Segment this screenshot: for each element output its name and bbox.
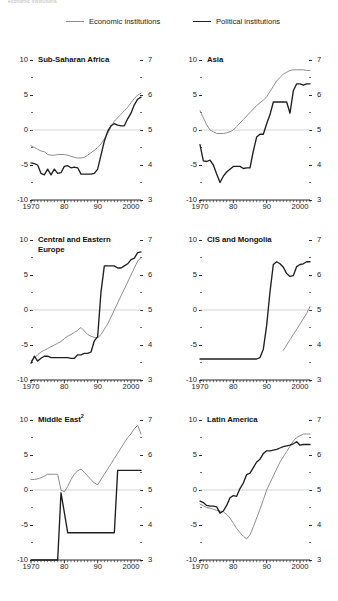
y-axis-right-minor-tick <box>313 108 335 118</box>
y-axis-right-tick: 4 <box>313 340 335 350</box>
y-axis-right-minor-tick <box>144 108 166 118</box>
x-axis-labels: 197080902000 <box>200 382 310 394</box>
y-axis-left-tick: -5 <box>6 520 28 530</box>
chart-panel: Central and Eastern Europe1050-5-1076543… <box>0 232 169 412</box>
y-axis-left-tick: 0 <box>175 305 197 315</box>
y-axis-left-tick: -5 <box>175 160 197 170</box>
y-axis-left-minor-tick <box>6 323 28 333</box>
x-axis-label: 90 <box>93 382 101 391</box>
y-axis-left-tick: -5 <box>6 160 28 170</box>
x-axis-label: 1970 <box>23 562 40 571</box>
y-axis-left-label: -5 <box>21 340 28 349</box>
y-axis-right-label: 6 <box>317 450 321 459</box>
y-axis-left-minor-tick <box>175 433 197 443</box>
y-axis-right-tick: 4 <box>313 160 335 170</box>
y-axis-right-tick: 7 <box>144 235 166 245</box>
y-axis-right-tick: 3 <box>313 195 335 205</box>
y-axis-left-tick: 5 <box>175 450 197 460</box>
y-axis-left-minor-tick <box>6 288 28 298</box>
y-axis-right-label: 7 <box>317 55 321 64</box>
y-axis-left-tick: 0 <box>6 305 28 315</box>
y-axis-right-tick: 6 <box>313 90 335 100</box>
chart-panel: CIS and Mongolia1050-5-10765431970809020… <box>169 232 338 412</box>
y-axis-right-minor-tick <box>313 143 335 153</box>
y-axis-right-minor-tick <box>144 178 166 188</box>
y-axis-right-minor-tick <box>313 468 335 478</box>
x-axis-label: 2000 <box>292 562 309 571</box>
y-axis-left-label: 5 <box>24 270 28 279</box>
y-axis-right-label: 5 <box>148 125 152 134</box>
y-axis-left-label: 10 <box>20 415 28 424</box>
y-axis-left-minor-tick <box>175 143 197 153</box>
chart-panel: Middle East21050-5-1076543197080902000 <box>0 412 169 592</box>
x-axis-labels: 197080902000 <box>31 202 141 214</box>
y-axis-left-minor-tick <box>175 178 197 188</box>
y-axis-right-tick: 6 <box>313 270 335 280</box>
y-axis-right-minor-tick <box>144 143 166 153</box>
y-axis-right-minor-tick <box>313 178 335 188</box>
y-axis-left-label: 0 <box>24 125 28 134</box>
y-axis-right-tick: 7 <box>313 55 335 65</box>
y-axis-left-label: 10 <box>189 235 197 244</box>
y-axis-right-tick: 5 <box>144 305 166 315</box>
y-axis-right-minor-tick <box>144 253 166 263</box>
y-axis-right-tick: 5 <box>313 125 335 135</box>
x-axis-label: 1970 <box>23 202 40 211</box>
y-axis-right-label: 7 <box>317 415 321 424</box>
y-axis-right-minor-tick <box>313 538 335 548</box>
plot-area <box>31 420 141 560</box>
y-axis-left-minor-tick <box>6 358 28 368</box>
x-axis-label: 1970 <box>192 562 209 571</box>
y-axis-right-tick: 4 <box>144 160 166 170</box>
legend-entry-economic: Economic institutions <box>66 17 160 26</box>
y-axis-right-label: 7 <box>148 415 152 424</box>
x-axis-label: 80 <box>229 202 237 211</box>
series-line <box>31 252 141 363</box>
series-line <box>31 258 141 361</box>
y-axis-right-tick: 6 <box>144 450 166 460</box>
y-axis-right-label: 3 <box>317 555 321 564</box>
y-axis-left-label: 0 <box>193 125 197 134</box>
y-axis-right-label: 6 <box>317 270 321 279</box>
x-axis-label: 1970 <box>192 382 209 391</box>
y-axis-left-minor-tick <box>175 253 197 263</box>
y-axis-left-minor-tick <box>175 503 197 513</box>
y-axis-right-label: 4 <box>317 520 321 529</box>
x-axis-label: 1970 <box>23 382 40 391</box>
chart-panel: Asia1050-5-1076543197080902000 <box>169 52 338 232</box>
plot-area <box>200 420 310 560</box>
series-line <box>283 307 310 351</box>
y-axis-right-label: 3 <box>148 195 152 204</box>
y-axis-left-tick: 5 <box>175 270 197 280</box>
y-axis-right-label: 6 <box>148 270 152 279</box>
y-axis-right-minor-tick <box>144 323 166 333</box>
x-axis-label: 90 <box>93 562 101 571</box>
y-axis-right-label: 3 <box>148 375 152 384</box>
panel-title-footnote: 2 <box>81 413 84 419</box>
x-axis-label: 80 <box>229 382 237 391</box>
legend-label-economic: Economic institutions <box>89 17 160 26</box>
series-line <box>31 97 141 175</box>
y-axis-right-label: 3 <box>317 195 321 204</box>
y-axis-left-tick: 10 <box>175 235 197 245</box>
y-axis-right-tick: 6 <box>313 450 335 460</box>
y-axis-right-tick: 7 <box>144 415 166 425</box>
y-axis-left-minor-tick <box>6 143 28 153</box>
y-axis-left-label: 0 <box>193 485 197 494</box>
y-axis-right-minor-tick <box>144 468 166 478</box>
y-axis-right-tick: 5 <box>144 125 166 135</box>
y-axis-left-tick: -5 <box>6 340 28 350</box>
y-axis-right-tick: 3 <box>144 375 166 385</box>
y-axis-left-label: 10 <box>189 55 197 64</box>
y-axis-right-label: 5 <box>317 125 321 134</box>
series-line <box>31 425 141 492</box>
y-axis-left-label: 10 <box>20 55 28 64</box>
y-axis-left-minor-tick <box>175 538 197 548</box>
y-axis-right-tick: 7 <box>313 235 335 245</box>
y-axis-right-tick: 3 <box>313 555 335 565</box>
y-axis-left-label: 10 <box>20 235 28 244</box>
y-axis-right-tick: 5 <box>313 485 335 495</box>
y-axis-right-tick: 5 <box>313 305 335 315</box>
y-axis-left-label: 10 <box>189 415 197 424</box>
y-axis-right-label: 5 <box>317 305 321 314</box>
